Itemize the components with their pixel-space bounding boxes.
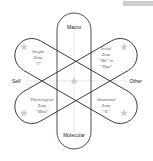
zone-social-line-2: Zone <box>102 52 111 57</box>
zone-social: Social Zone “Me” or “Thee” <box>99 46 114 69</box>
zone-situational-line-2: Zone <box>102 103 111 108</box>
zone-social-line-3: “Me” or <box>99 58 114 63</box>
axis-label-bottom: Molecular <box>63 132 85 138</box>
zone-insight-line-1: Insight <box>31 49 44 54</box>
zone-situational-line-3: “It” <box>102 109 110 114</box>
social-star-icon <box>120 43 128 50</box>
zone-physiological-line-2: Zone <box>38 103 47 108</box>
zone-situational: Situational Zone “It” <box>97 97 116 114</box>
axis-label-right: Other <box>129 78 142 84</box>
physiological-star-icon <box>20 109 28 116</box>
zone-situational-line-1: Situational <box>97 97 116 102</box>
zone-insight-line-2: Zone <box>34 55 43 60</box>
zone-physiological-line-1: Physiological <box>29 97 54 102</box>
zone-physiological-line-3: “Mine” <box>35 109 49 114</box>
zone-insight-line-3: “I” <box>35 61 42 66</box>
zone-physiological: Physiological Zone “Mine” <box>29 97 54 114</box>
zone-social-line-1: Social <box>101 46 112 51</box>
insight-star-icon <box>20 43 28 50</box>
axis-label-top: Macro <box>67 24 81 30</box>
axis-label-left: Self <box>12 78 21 84</box>
zone-social-line-4: “Thee” <box>100 64 113 69</box>
situational-star-icon <box>120 109 128 116</box>
flower-diagram: Macro Molecular Self Other Insight Zone … <box>0 0 153 161</box>
zone-insight: Insight Zone “I” <box>31 49 44 66</box>
